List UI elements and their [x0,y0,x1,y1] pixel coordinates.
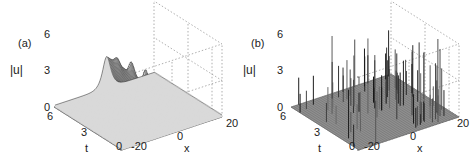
z-tick-6-a: 6 [44,29,50,40]
x-tick-neg20-a: -20 [131,141,147,152]
t-tick-6-a: 6 [47,111,53,122]
x-tick-0-b: 0 [410,131,416,142]
panel-b: (b) |u| 6 3 0 6 3 0 t -20 0 20 x [237,0,473,167]
t-axis-label-a: t [85,143,88,154]
z-tick-3-a: 3 [44,65,50,76]
t-tick-3-b: 3 [314,127,320,138]
t-tick-0-a: 0 [116,141,122,152]
z-axis-label-b: |u| [243,63,256,77]
x-tick-20-b: 20 [457,118,469,129]
x-axis-label-a: x [184,143,190,154]
panel-tag-b: (b) [251,37,264,49]
z-tick-6-b: 6 [277,29,283,40]
t-tick-6-b: 6 [280,111,286,122]
panel-tag-a: (a) [18,37,31,49]
z-tick-3-b: 3 [277,65,283,76]
panel-a: (a) |u| 6 3 0 6 3 0 t -20 0 20 x [0,0,236,167]
t-axis-label-b: t [318,143,321,154]
z-axis-label-a: |u| [10,63,23,77]
x-tick-neg20-b: -20 [364,141,380,152]
x-tick-0-a: 0 [177,131,183,142]
t-tick-0-b: 0 [349,141,355,152]
t-tick-3-a: 3 [81,127,87,138]
x-axis-label-b: x [417,143,423,154]
